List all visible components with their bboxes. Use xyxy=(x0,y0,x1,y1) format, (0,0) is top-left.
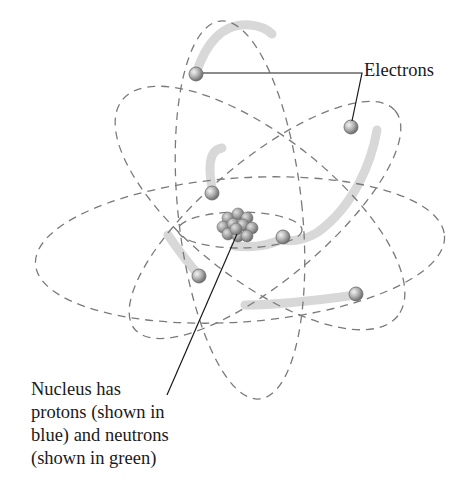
nucleus-leader xyxy=(167,234,237,395)
orbit-tilted-left xyxy=(78,44,442,373)
nucleus-label-line: protons (shown in xyxy=(31,401,211,424)
electron xyxy=(276,230,290,244)
nucleus-label-line: (shown in green) xyxy=(31,447,211,470)
electron xyxy=(344,120,358,134)
nucleus-label: Nucleus has protons (shown in blue) and … xyxy=(31,378,211,470)
electron xyxy=(205,186,219,200)
nucleus-label-line: Nucleus has xyxy=(31,378,211,401)
electrons-leader xyxy=(203,73,362,121)
nucleus-label-line: blue) and neutrons xyxy=(31,424,211,447)
electron xyxy=(192,269,206,283)
orbit-tilted-right xyxy=(96,65,434,375)
electron xyxy=(189,67,203,81)
electron xyxy=(349,287,363,301)
electron-trails xyxy=(168,25,377,305)
electrons-label: Electrons xyxy=(364,59,434,82)
leader-lines xyxy=(167,73,362,395)
